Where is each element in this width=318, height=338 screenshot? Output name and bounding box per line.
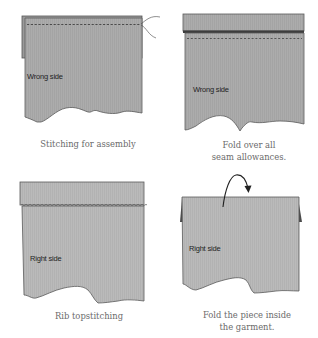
fabric-piece-wrong-side <box>25 18 142 122</box>
caption: Fold the piece inside the garment. <box>203 309 291 333</box>
caption: Stitching for assembly <box>40 138 135 150</box>
thread-tail-icon <box>141 17 160 24</box>
thread-tail-icon <box>141 25 156 38</box>
caption-line: the garment. <box>203 321 291 333</box>
sewing-steps-diagram <box>0 0 318 338</box>
caption-line: Stitching for assembly <box>40 138 135 150</box>
caption: Rib topstitching <box>55 310 123 322</box>
fabric-label: Wrong side <box>193 85 229 94</box>
panel-rib-topstitching <box>20 182 147 303</box>
rib-band <box>183 14 304 31</box>
panel-fold-piece-inside <box>180 175 302 293</box>
caption-line: Fold over all <box>212 139 286 151</box>
caption-line: seam allowances. <box>212 151 286 163</box>
panel-fold-over-seam-allowances <box>183 14 304 131</box>
panel-stitching-for-assembly <box>22 16 160 122</box>
fabric-label: Right side <box>30 254 61 263</box>
caption: Fold over all seam allowances. <box>212 139 286 163</box>
caption-line: Fold the piece inside <box>203 309 291 321</box>
fabric-label: Right side <box>189 244 220 253</box>
caption-line: Rib topstitching <box>55 310 123 322</box>
fabric-label: Wrong side <box>27 72 63 81</box>
arrow-head-icon <box>245 186 252 194</box>
fabric-piece-wrong-side <box>185 33 304 131</box>
rib-band <box>20 182 144 205</box>
